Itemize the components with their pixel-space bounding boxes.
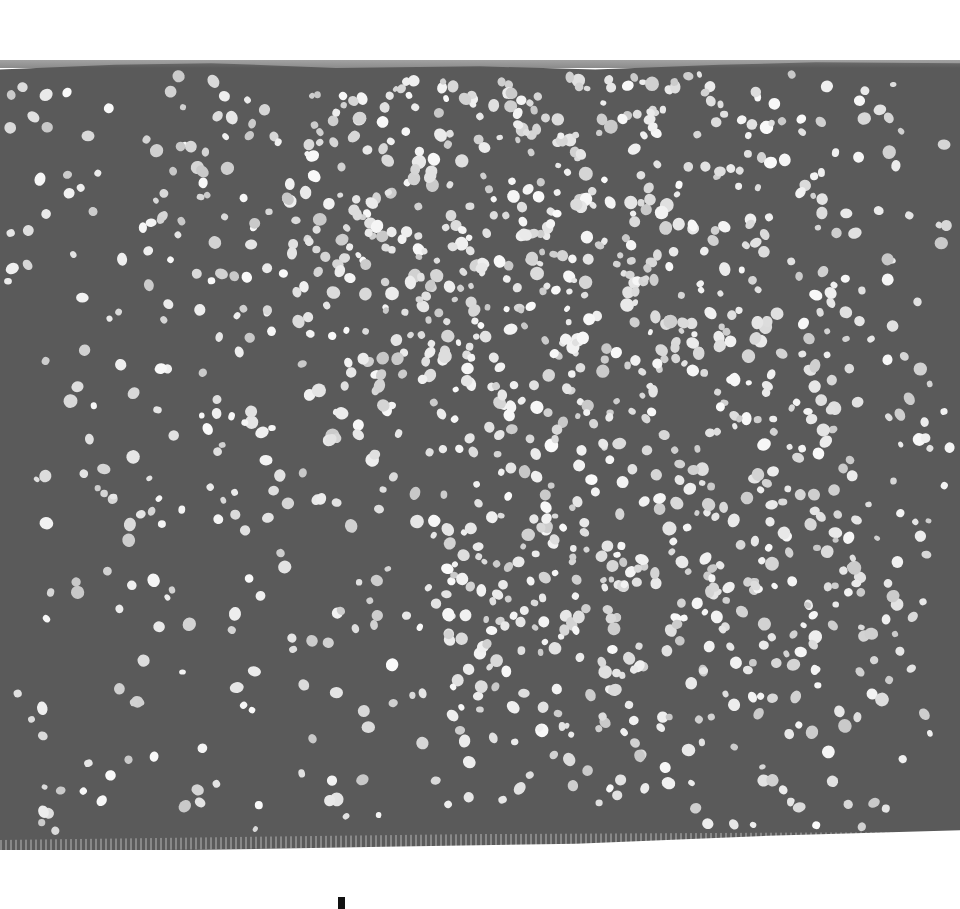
bottom-mark	[338, 897, 345, 909]
white-dot-field	[0, 0, 960, 909]
